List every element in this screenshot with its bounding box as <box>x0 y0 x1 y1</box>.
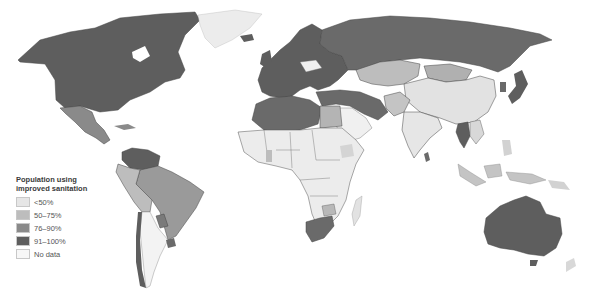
region-south-africa <box>306 216 334 242</box>
legend-label: 50–75% <box>34 211 62 220</box>
legend-label: No data <box>34 250 60 259</box>
legend-label: 91–100% <box>34 237 66 246</box>
region-sub-saharan-africa <box>238 128 364 228</box>
region-png <box>548 180 570 190</box>
region-russia <box>320 16 552 72</box>
legend-swatch <box>16 236 30 246</box>
legend-title-line2: improved sanitation <box>16 185 126 194</box>
legend-swatch <box>16 223 30 233</box>
region-ghana <box>266 150 272 162</box>
legend-item-50-75: 50–75% <box>16 209 126 221</box>
region-sri-lanka <box>424 152 430 162</box>
region-australia <box>484 196 562 256</box>
legend-title: Population using improved sanitation <box>16 176 126 193</box>
region-tasmania <box>530 260 538 266</box>
region-india <box>402 112 442 158</box>
region-madagascar <box>352 196 362 226</box>
region-north-america <box>18 12 200 112</box>
region-egypt <box>320 106 342 128</box>
legend-swatch <box>16 197 30 207</box>
region-indonesia <box>458 164 546 186</box>
region-zimbabwe <box>322 204 336 216</box>
legend-swatch <box>16 249 30 259</box>
region-philippines <box>502 140 512 156</box>
region-ethiopia <box>340 144 354 158</box>
region-greenland <box>198 10 262 48</box>
region-thailand <box>456 122 470 148</box>
legend-item-lt50: <50% <box>16 196 126 208</box>
legend-item-91-100: 91–100% <box>16 235 126 247</box>
region-caribbean <box>114 124 136 130</box>
legend-swatch <box>16 210 30 220</box>
region-new-zealand <box>566 258 576 272</box>
region-japan <box>508 70 528 104</box>
legend-label: <50% <box>34 198 53 207</box>
region-indochina <box>470 120 484 144</box>
region-north-africa <box>252 96 322 132</box>
legend-label: 76–90% <box>34 224 62 233</box>
region-iceland <box>240 34 254 42</box>
region-korea <box>500 82 506 92</box>
legend-item-no-data: No data <box>16 248 126 260</box>
map-legend: Population using improved sanitation <50… <box>16 176 126 261</box>
legend-item-76-90: 76–90% <box>16 222 126 234</box>
